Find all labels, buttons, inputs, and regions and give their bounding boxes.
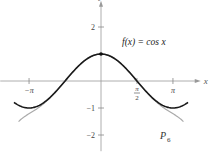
- x-axis-arrow: [195, 79, 201, 83]
- axes: [0, 1, 201, 152]
- p6-subscript: 6: [167, 136, 171, 144]
- y-tick-label: −1: [86, 104, 95, 113]
- x-tick-label: π: [171, 86, 176, 95]
- f-label: f(x) = cos x: [122, 37, 166, 48]
- p6-label: P: [159, 130, 166, 141]
- y-axis-label: y: [98, 0, 103, 1]
- y-tick-label: 2: [91, 23, 95, 32]
- x-axis-label: x: [203, 76, 208, 86]
- x-tick-label-num: π: [135, 85, 139, 93]
- x-tick-label-den: 2: [135, 94, 139, 102]
- point-0-1: [99, 52, 103, 56]
- y-axis-arrow: [99, 1, 103, 7]
- y-tick-label: −2: [86, 131, 95, 140]
- chart: xy−ππ2π2−1−2f(x) = cos xP6: [0, 0, 209, 157]
- x-tick-label: −π: [24, 86, 34, 95]
- labels: xy−ππ2π2−1−2f(x) = cos xP6: [24, 0, 207, 144]
